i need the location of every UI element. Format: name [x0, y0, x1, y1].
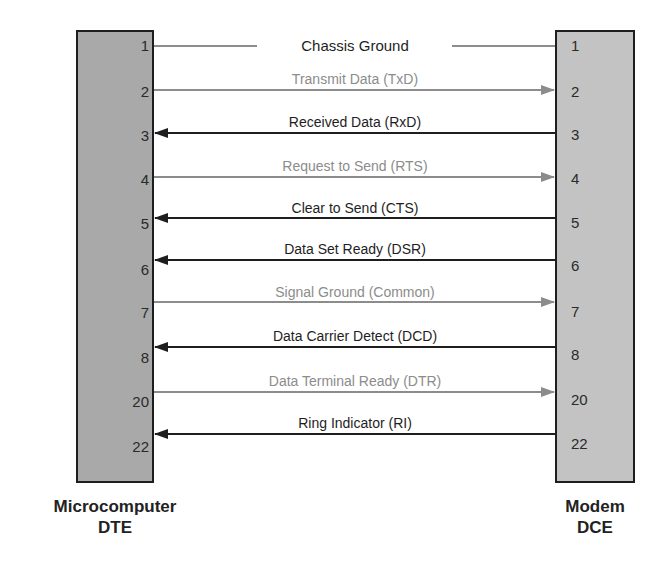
- dce-pin-3: 3: [571, 127, 611, 143]
- dte-pin-5: 5: [109, 216, 149, 232]
- dce-pin-22: 22: [571, 436, 611, 452]
- dte-title-line1: Microcomputer: [10, 496, 220, 517]
- signal-label-rts: Request to Send (RTS): [155, 158, 555, 174]
- dce-pin-7: 7: [571, 304, 611, 320]
- signal-label-dsr: Data Set Ready (DSR): [155, 241, 555, 257]
- dte-pin-20: 20: [109, 394, 149, 410]
- dce-pin-1: 1: [571, 38, 611, 54]
- dte-pin-2: 2: [109, 84, 149, 100]
- dce-pin-4: 4: [571, 171, 611, 187]
- dce-pin-5: 5: [571, 215, 611, 231]
- dce-title: Modem DCE: [545, 496, 645, 538]
- signal-label-chassis-ground: Chassis Ground: [155, 38, 555, 54]
- dte-pin-1: 1: [109, 38, 149, 54]
- dte-title: Microcomputer DTE: [10, 496, 220, 538]
- dte-pin-8: 8: [109, 350, 149, 366]
- dce-pin-20: 20: [571, 392, 611, 408]
- dte-pin-6: 6: [109, 262, 149, 278]
- dte-pin-22: 22: [109, 439, 149, 455]
- signal-label-ri: Ring Indicator (RI): [155, 415, 555, 431]
- dte-pin-7: 7: [109, 305, 149, 321]
- signal-label-rxd: Received Data (RxD): [155, 114, 555, 130]
- signal-label-signal-ground: Signal Ground (Common): [155, 284, 555, 300]
- dce-pin-2: 2: [571, 84, 611, 100]
- dce-title-line1: Modem: [545, 496, 645, 517]
- dce-pin-6: 6: [571, 258, 611, 274]
- signal-label-dcd: Data Carrier Detect (DCD): [155, 328, 555, 344]
- signal-label-txd: Transmit Data (TxD): [155, 71, 555, 87]
- dte-pin-4: 4: [109, 172, 149, 188]
- dce-pin-8: 8: [571, 347, 611, 363]
- dte-pin-3: 3: [109, 128, 149, 144]
- dte-title-line2: DTE: [10, 517, 220, 538]
- signal-label-cts: Clear to Send (CTS): [155, 200, 555, 216]
- signal-label-dtr: Data Terminal Ready (DTR): [155, 373, 555, 389]
- dce-title-line2: DCE: [545, 517, 645, 538]
